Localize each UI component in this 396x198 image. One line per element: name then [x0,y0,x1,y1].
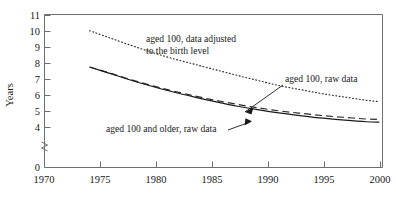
y-tick-label: 9 [35,42,40,53]
y-tick-label: 6 [35,90,40,101]
x-tick-labels: 1970 1975 1980 1985 1990 1995 2000 [34,174,391,185]
x-tick-label: 1980 [146,174,167,185]
x-tick-label: 1975 [90,174,111,185]
y-tick-label: 10 [30,26,41,37]
x-tick-label: 1990 [258,174,279,185]
x-tick-label: 1970 [34,174,55,185]
annotation-raw-100-older: aged 100 and older, raw data [106,118,252,134]
x-tick-label: 2000 [370,174,391,185]
y-tick-label: 8 [35,58,40,69]
annotation-raw-100-label: aged 100, raw data [285,73,358,84]
y-tick-label: 0 [35,162,40,173]
y-tick-label: 4 [35,122,41,133]
y-tick-labels: 11 10 9 8 7 6 5 4 0 [30,10,41,173]
x-axis-ticks [45,162,381,168]
chart-canvas: 11 10 9 8 7 6 5 4 0 Years 1970 1975 1980 [0,0,396,198]
chart-figure: 11 10 9 8 7 6 5 4 0 Years 1970 1975 1980 [0,0,396,198]
x-tick-label: 1995 [314,174,335,185]
y-axis-title: Years [4,83,15,106]
x-tick-label: 1985 [202,174,223,185]
y-tick-label: 7 [35,74,40,85]
annotation-raw-100-older-label: aged 100 and older, raw data [106,123,217,134]
annotation-adjusted: aged 100, data adjusted to the birth lev… [146,33,236,56]
y-tick-label: 5 [35,106,40,117]
y-tick-label: 11 [30,10,40,21]
y-axis-break-icon [42,142,48,151]
y-axis-ticks [45,16,51,128]
annotation-adjusted-line2: to the birth level [146,45,209,56]
annotation-adjusted-line1: aged 100, data adjusted [146,33,236,44]
